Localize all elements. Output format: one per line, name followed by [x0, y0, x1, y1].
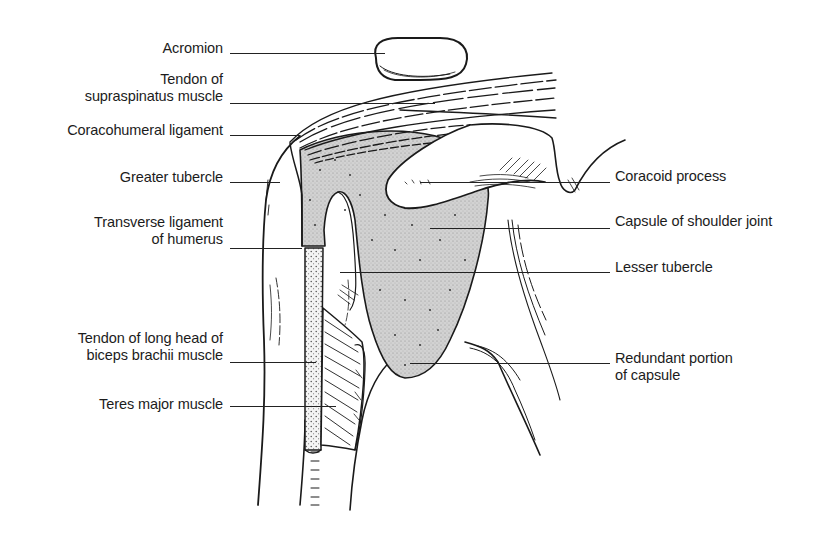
shoulder-joint-diagram: Acromion Tendon of supraspinatus muscle … — [0, 0, 835, 538]
leader-acromion — [230, 53, 385, 54]
label-coracoid-process-line-1: Coracoid process — [615, 168, 726, 185]
label-supraspinatus-line-2: supraspinatus muscle — [85, 88, 223, 105]
leader-redundant-capsule — [410, 363, 610, 364]
leader-coracoid-process — [420, 182, 610, 183]
label-acromion: Acromion — [163, 40, 223, 57]
leader-coracohumeral — [230, 135, 300, 136]
leader-biceps-tendon — [230, 362, 316, 363]
biceps-tendon-shape — [305, 248, 323, 453]
label-redundant-capsule-line-2: of capsule — [615, 367, 733, 384]
leader-transverse-ligament — [230, 248, 302, 249]
label-coracoid-process: Coracoid process — [615, 168, 726, 185]
label-biceps-tendon-line-1: Tendon of long head of — [78, 330, 223, 347]
label-capsule: Capsule of shoulder joint — [615, 213, 772, 230]
leader-teres-major — [230, 406, 336, 407]
label-lesser-tubercle-line-1: Lesser tubercle — [615, 259, 713, 276]
leader-greater-tubercle — [230, 182, 280, 183]
label-teres-major-line-1: Teres major muscle — [99, 396, 223, 413]
label-teres-major: Teres major muscle — [99, 396, 223, 413]
label-supraspinatus: Tendon of supraspinatus muscle — [85, 71, 223, 105]
leader-lesser-tubercle — [340, 272, 610, 273]
label-coracohumeral-line-1: Coracohumeral ligament — [67, 122, 223, 139]
leader-supraspinatus — [230, 103, 435, 104]
label-transverse-ligament: Transverse ligament of humerus — [94, 214, 223, 248]
label-acromion-line-1: Acromion — [163, 40, 223, 57]
label-coracohumeral: Coracohumeral ligament — [67, 122, 223, 139]
label-supraspinatus-line-1: Tendon of — [85, 71, 223, 88]
label-redundant-capsule: Redundant portion of capsule — [615, 350, 733, 384]
label-redundant-capsule-line-1: Redundant portion — [615, 350, 733, 367]
acromion-shape — [375, 38, 467, 80]
label-transverse-ligament-line-2: of humerus — [94, 231, 223, 248]
label-biceps-tendon-line-2: biceps brachii muscle — [78, 347, 223, 364]
label-lesser-tubercle: Lesser tubercle — [615, 259, 713, 276]
leader-capsule — [430, 228, 610, 229]
label-capsule-line-1: Capsule of shoulder joint — [615, 213, 772, 230]
teres-major-shape — [321, 308, 365, 450]
label-transverse-ligament-line-1: Transverse ligament — [94, 214, 223, 231]
label-greater-tubercle-line-1: Greater tubercle — [120, 169, 223, 186]
label-biceps-tendon: Tendon of long head of biceps brachii mu… — [78, 330, 223, 364]
label-greater-tubercle: Greater tubercle — [120, 169, 223, 186]
